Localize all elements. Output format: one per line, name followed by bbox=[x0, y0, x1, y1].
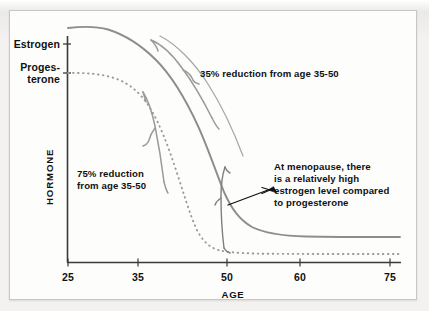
x-tick-label-35: 35 bbox=[126, 271, 150, 283]
annotation-progesterone-reduction-line2: from age 35-50 bbox=[77, 180, 167, 192]
x-tick-label-75: 75 bbox=[378, 271, 402, 283]
x-tick-label-25: 25 bbox=[56, 271, 80, 283]
x-tick-label-60: 60 bbox=[288, 271, 312, 283]
x-tick-label-50: 50 bbox=[215, 271, 239, 283]
series-label-estrogen: Estrogen bbox=[6, 38, 60, 50]
annotation-estrogen-reduction: 35% reduction from age 35-50 bbox=[200, 68, 370, 80]
menopause-annotation-arrow bbox=[228, 185, 278, 205]
annotation-menopause-line3: estrogen level compared bbox=[274, 185, 406, 197]
series-label-progesterone-line1: Proges- bbox=[6, 61, 60, 73]
y-axis-title: HORMONE bbox=[44, 149, 55, 205]
chart-plot-area bbox=[0, 0, 429, 311]
annotation-menopause-line4: to progesterone bbox=[274, 197, 398, 209]
x-axis-title: AGE bbox=[210, 289, 256, 300]
annotation-menopause-line1: At menopause, there bbox=[274, 161, 398, 173]
menopause-gap-brace bbox=[215, 167, 230, 253]
annotation-menopause-line2: is a relatively high bbox=[274, 173, 398, 185]
annotation-progesterone-reduction-line1: 75% reduction bbox=[77, 168, 161, 180]
estrogen-reduction-brace-outer bbox=[160, 36, 243, 156]
hormone-decline-figure: Estrogen Proges- terone HORMONE 25 35 50… bbox=[0, 0, 429, 311]
series-label-progesterone-line2: terone bbox=[6, 73, 60, 85]
